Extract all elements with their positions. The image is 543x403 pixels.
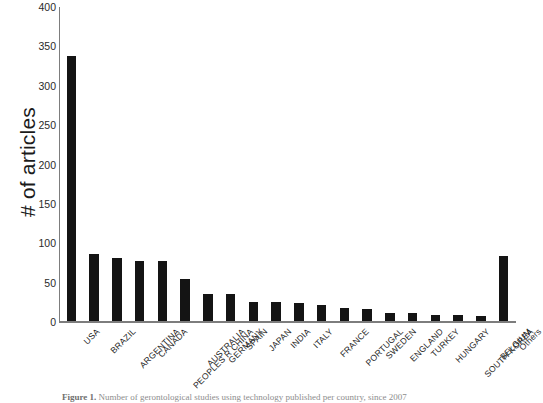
bar: [158, 261, 168, 322]
plot-box: [59, 7, 514, 322]
x-tick-label: ITALY: [312, 327, 335, 350]
y-tick-label: 200: [38, 160, 56, 170]
x-tick-label: INDIA: [289, 327, 312, 350]
chart-plot-region: # of articles 400350300250200150100500 U…: [0, 0, 523, 330]
figure-caption-label: Figure 1.: [62, 392, 96, 402]
bar: [180, 279, 190, 322]
y-tick-label: 300: [38, 81, 56, 91]
x-axis-line: [59, 321, 516, 323]
bar: [499, 256, 509, 322]
y-tick-label: 0: [50, 317, 56, 327]
bar: [89, 254, 99, 322]
x-tick-label: FRANCE: [338, 327, 370, 359]
bar: [317, 305, 327, 322]
y-tick-label: 400: [38, 2, 56, 12]
figure-caption: Figure 1. Number of gerontological studi…: [62, 392, 502, 403]
bar: [226, 294, 236, 322]
x-axis-tick-labels: USABRAZILARGENTINACANADAPEOPLES R CHINAA…: [59, 324, 516, 400]
x-tick-label: USA: [83, 327, 102, 346]
bar: [249, 302, 259, 322]
bar: [340, 308, 350, 322]
bar: [135, 261, 145, 322]
y-tick-label: 100: [38, 238, 56, 248]
bar: [294, 303, 304, 322]
figure-caption-text: Number of gerontological studies using t…: [99, 392, 407, 402]
bar-series: [60, 7, 514, 322]
y-tick-label: 50: [44, 278, 56, 288]
bar: [203, 294, 213, 322]
y-tick-label: 350: [38, 41, 56, 51]
bar: [112, 258, 122, 322]
x-tick-label: BRAZIL: [109, 327, 137, 355]
bar: [67, 56, 77, 322]
y-tick-label: 150: [38, 199, 56, 209]
y-axis-tick-labels: 400350300250200150100500: [22, 0, 56, 330]
bar: [271, 302, 281, 322]
y-tick-label: 250: [38, 120, 56, 130]
